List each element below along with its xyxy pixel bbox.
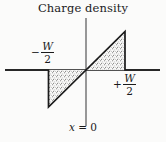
origin-label: x = 0 <box>0 122 166 133</box>
origin-variable: x <box>69 121 75 133</box>
charge-density-figure: Charge density − W 2 + W 2 x = 0 <box>0 0 166 142</box>
fraction-numerator: W <box>123 73 136 84</box>
minus-sign-icon: − <box>31 47 41 58</box>
x-tick-label-negative-half-w: − W 2 <box>31 41 54 64</box>
fraction-pos-half-w: W 2 <box>123 73 136 96</box>
origin-equals-sign: = <box>78 121 87 133</box>
chart-title: Charge density <box>0 3 166 15</box>
plus-sign-icon: + <box>113 79 123 90</box>
x-tick-label-positive-half-w: + W 2 <box>113 73 136 96</box>
fraction-denominator: 2 <box>125 85 134 96</box>
fraction-neg-half-w: W 2 <box>41 41 54 64</box>
fraction-numerator: W <box>41 41 54 52</box>
origin-value: 0 <box>90 121 97 133</box>
fraction-denominator: 2 <box>43 53 52 64</box>
